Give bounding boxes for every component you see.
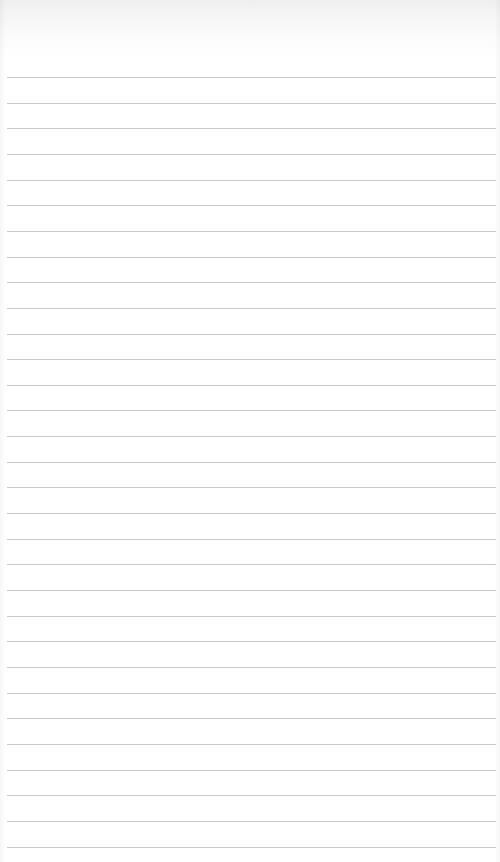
- ruled-line: [7, 667, 496, 668]
- ruled-line: [7, 564, 496, 565]
- ruled-line: [7, 487, 496, 488]
- ruled-line: [7, 282, 496, 283]
- ruled-line: [7, 205, 496, 206]
- ruled-line: [7, 590, 496, 591]
- ruled-line: [7, 128, 496, 129]
- ruled-line: [7, 257, 496, 258]
- ruled-line: [7, 641, 496, 642]
- lined-paper-sheet: [0, 0, 500, 862]
- ruled-line: [7, 359, 496, 360]
- ruled-line: [7, 410, 496, 411]
- ruled-line: [7, 693, 496, 694]
- ruled-line: [7, 103, 496, 104]
- ruled-line: [7, 308, 496, 309]
- ruled-line: [7, 770, 496, 771]
- ruled-line: [7, 385, 496, 386]
- ruled-line: [7, 539, 496, 540]
- ruled-line: [7, 744, 496, 745]
- ruled-line: [7, 821, 496, 822]
- ruled-line: [7, 616, 496, 617]
- ruled-line: [7, 718, 496, 719]
- ruled-line: [7, 847, 496, 848]
- ruled-line: [7, 77, 496, 78]
- ruled-line: [7, 154, 496, 155]
- ruled-line: [7, 462, 496, 463]
- ruled-line: [7, 513, 496, 514]
- ruled-line: [7, 436, 496, 437]
- ruled-line: [7, 334, 496, 335]
- ruled-line: [7, 231, 496, 232]
- ruled-line: [7, 180, 496, 181]
- ruled-line: [7, 795, 496, 796]
